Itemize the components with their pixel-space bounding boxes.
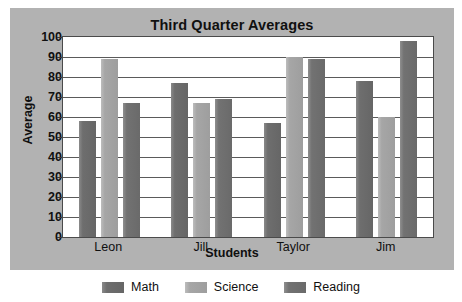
y-tick-label: 20 — [22, 190, 62, 204]
legend-label: Reading — [313, 280, 360, 294]
bar-math-jim — [356, 81, 373, 237]
plot-area — [62, 36, 434, 238]
y-axis: 0102030405060708090100 — [10, 36, 62, 238]
chart-legend: MathScienceReading — [0, 276, 462, 298]
bar-science-leon — [101, 59, 118, 237]
bar-group — [341, 37, 434, 237]
y-tick-label: 100 — [22, 30, 62, 44]
bar-group — [63, 37, 156, 237]
legend-swatch-math — [102, 282, 124, 293]
y-tick-label: 10 — [22, 210, 62, 224]
y-tick-label: 30 — [22, 170, 62, 184]
bar-math-taylor — [264, 123, 281, 237]
y-tick-label: 50 — [22, 130, 62, 144]
y-tick-label: 60 — [22, 110, 62, 124]
legend-item-science[interactable]: Science — [185, 280, 258, 294]
bar-science-taylor — [286, 57, 303, 237]
chart-panel: Third Quarter Averages Average 010203040… — [10, 8, 454, 270]
bar-reading-jim — [400, 41, 417, 237]
legend-swatch-science — [185, 282, 207, 293]
bar-group — [156, 37, 249, 237]
bar-reading-taylor — [308, 59, 325, 237]
x-tick-label-leon: Leon — [94, 240, 122, 254]
chart-title: Third Quarter Averages — [10, 17, 454, 33]
x-tick-label-taylor: Taylor — [277, 240, 310, 254]
y-tick-label: 70 — [22, 90, 62, 104]
bar-science-jill — [193, 103, 210, 237]
legend-item-reading[interactable]: Reading — [284, 280, 360, 294]
bar-math-jill — [171, 83, 188, 237]
x-tick-label-jill: Jill — [193, 240, 208, 254]
y-tick-label: 0 — [22, 230, 62, 244]
bar-math-leon — [79, 121, 96, 237]
bar-science-jim — [378, 117, 395, 237]
x-tick-label-jim: Jim — [376, 240, 395, 254]
y-tick-label: 40 — [22, 150, 62, 164]
legend-item-math[interactable]: Math — [102, 280, 159, 294]
bar-reading-jill — [215, 99, 232, 237]
bar-group — [248, 37, 341, 237]
bar-reading-leon — [123, 103, 140, 237]
chart-figure: Third Quarter Averages Average 010203040… — [0, 0, 462, 302]
legend-label: Math — [131, 280, 159, 294]
legend-label: Science — [214, 280, 258, 294]
y-tick-label: 80 — [22, 70, 62, 84]
y-tick-label: 90 — [22, 50, 62, 64]
legend-swatch-reading — [284, 282, 306, 293]
